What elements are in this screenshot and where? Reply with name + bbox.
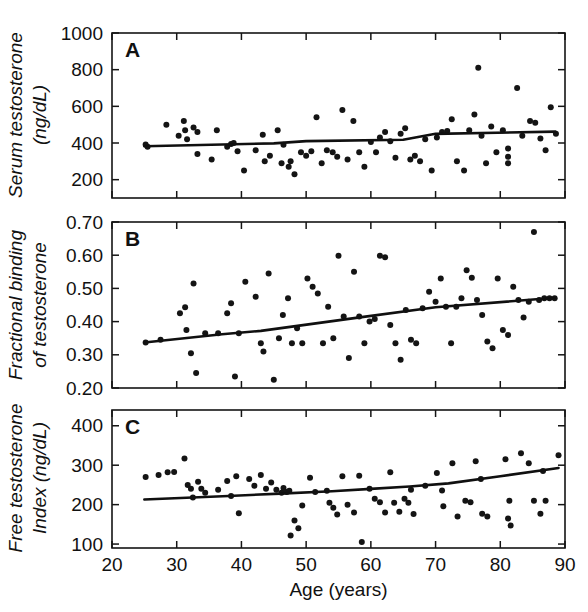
data-point xyxy=(391,500,397,506)
data-point xyxy=(258,472,264,478)
data-point xyxy=(398,357,404,363)
data-point xyxy=(392,155,398,161)
y-tick-label-b-4: 0.60 xyxy=(66,245,103,266)
data-point xyxy=(439,487,445,493)
data-point xyxy=(471,112,477,118)
data-point xyxy=(260,132,266,138)
data-point xyxy=(224,310,230,316)
data-point xyxy=(461,168,467,174)
data-point xyxy=(411,511,417,517)
data-point xyxy=(434,135,440,141)
data-point xyxy=(295,525,301,531)
data-point xyxy=(235,148,241,154)
data-point xyxy=(449,460,455,466)
data-point xyxy=(181,118,187,124)
data-point xyxy=(526,460,532,466)
data-point xyxy=(387,322,393,328)
data-point xyxy=(182,127,188,133)
data-point xyxy=(359,539,365,545)
figure-container: 2004006008001000A0.200.300.400.500.600.7… xyxy=(0,0,588,612)
data-point xyxy=(373,149,379,155)
data-point xyxy=(464,267,470,273)
data-point xyxy=(448,340,454,346)
x-tick-label-3: 50 xyxy=(296,554,317,575)
data-point xyxy=(228,300,234,306)
data-point xyxy=(233,473,239,479)
data-point xyxy=(188,486,194,492)
data-point xyxy=(484,513,490,519)
y-axis-title-line1-a: Serum testosterone xyxy=(5,32,26,198)
x-axis-title: Age (years) xyxy=(289,579,387,600)
y-tick-label-c-1: 200 xyxy=(71,494,103,515)
trendline-a xyxy=(144,132,555,147)
data-point xyxy=(194,129,200,135)
data-point xyxy=(195,479,201,485)
y-axis-title-a: Serum testosterone(ng/dL) xyxy=(5,32,50,198)
data-point xyxy=(275,127,281,133)
data-point xyxy=(556,452,562,458)
data-point xyxy=(143,474,149,480)
data-point xyxy=(177,310,183,316)
data-point xyxy=(500,327,506,333)
data-point xyxy=(165,469,171,475)
three-panel-scatter-figure: 2004006008001000A0.200.300.400.500.600.7… xyxy=(0,0,588,612)
data-point xyxy=(361,340,367,346)
data-point xyxy=(454,158,460,164)
data-point xyxy=(506,498,512,504)
data-point xyxy=(184,136,190,142)
y-axis-title-line2-b: of testosterone xyxy=(29,242,50,368)
data-point xyxy=(402,125,408,131)
data-point xyxy=(260,348,266,354)
y-axis-title-line2-a: (ng/dL) xyxy=(29,85,50,145)
data-point xyxy=(263,486,269,492)
data-point xyxy=(279,160,285,166)
data-point xyxy=(330,149,336,155)
data-point xyxy=(324,147,330,153)
data-point xyxy=(483,160,489,166)
x-tick-label-7: 90 xyxy=(554,554,575,575)
data-point xyxy=(298,149,304,155)
data-point xyxy=(303,153,309,159)
y-tick-label-a-2: 600 xyxy=(71,96,103,117)
data-point xyxy=(288,158,294,164)
data-point xyxy=(262,158,268,164)
panel-letter-a: A xyxy=(125,38,140,61)
data-point xyxy=(285,295,291,301)
data-point xyxy=(527,118,533,124)
data-point xyxy=(361,164,367,170)
panel-c: 100200300400C xyxy=(71,410,565,555)
y-tick-label-b-5: 0.70 xyxy=(66,212,103,233)
data-point xyxy=(181,456,187,462)
data-point xyxy=(490,345,496,351)
panel-letter-c: C xyxy=(125,415,140,438)
data-point xyxy=(253,294,259,300)
data-point xyxy=(276,335,282,341)
data-point xyxy=(241,168,247,174)
data-point xyxy=(339,473,345,479)
data-point xyxy=(330,505,336,511)
y-tick-label-c-2: 300 xyxy=(71,455,103,476)
data-point xyxy=(372,496,378,502)
data-point xyxy=(194,151,200,157)
data-point xyxy=(382,510,388,516)
data-point xyxy=(537,135,543,141)
data-point xyxy=(408,337,414,343)
data-point xyxy=(532,120,538,126)
data-point xyxy=(289,340,295,346)
x-tick-label-2: 40 xyxy=(231,554,252,575)
data-point xyxy=(242,279,248,285)
y-tick-label-a-1: 400 xyxy=(71,133,103,154)
data-point xyxy=(434,470,440,476)
data-point xyxy=(236,510,242,516)
data-point xyxy=(334,154,340,160)
data-point xyxy=(518,450,524,456)
data-point xyxy=(202,490,208,496)
data-point xyxy=(449,116,455,122)
y-tick-label-b-0: 0.20 xyxy=(66,378,103,399)
data-point xyxy=(209,157,215,163)
plot-frame-b xyxy=(112,222,565,388)
data-point xyxy=(543,498,549,504)
data-point xyxy=(351,510,357,516)
data-point xyxy=(531,498,537,504)
data-point xyxy=(510,284,516,290)
